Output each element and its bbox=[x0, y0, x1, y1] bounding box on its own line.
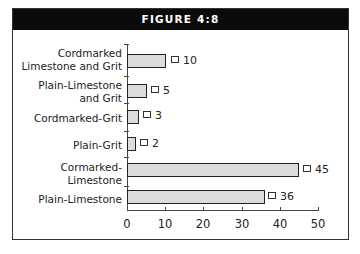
value-label: 5 bbox=[151, 85, 170, 97]
square-marker-icon bbox=[171, 56, 179, 63]
category-label: Plain-Limestone bbox=[38, 193, 122, 206]
square-marker-icon bbox=[151, 86, 159, 93]
bar-cormarked-limestone bbox=[127, 163, 299, 177]
x-tick-label: 20 bbox=[196, 217, 211, 231]
square-marker-icon bbox=[268, 192, 276, 199]
x-tick-label: 50 bbox=[311, 217, 326, 231]
category-label: Plain-Grit bbox=[73, 139, 122, 152]
value-label: 3 bbox=[143, 110, 162, 122]
x-tick-label: 40 bbox=[273, 217, 288, 231]
value-label: 45 bbox=[303, 164, 329, 176]
x-tick bbox=[280, 207, 281, 211]
x-axis bbox=[127, 210, 319, 211]
value-label: 36 bbox=[268, 191, 294, 203]
x-tick bbox=[242, 207, 243, 211]
value-label: 2 bbox=[140, 138, 159, 150]
square-marker-icon bbox=[143, 111, 151, 118]
y-tick bbox=[124, 44, 129, 45]
category-label: Cormarked- Limestone bbox=[61, 161, 123, 187]
y-tick bbox=[124, 157, 129, 158]
bar-plain-limestone bbox=[127, 190, 265, 204]
x-tick-label: 10 bbox=[158, 217, 173, 231]
value-label: 10 bbox=[171, 55, 197, 67]
bar-plain-grit bbox=[127, 137, 136, 151]
y-tick bbox=[124, 186, 129, 187]
bar-cordmarked-grit bbox=[127, 110, 139, 124]
category-label: Cordmarked Limestone and Grit bbox=[22, 47, 123, 73]
y-tick bbox=[124, 131, 129, 132]
x-tick-label: 0 bbox=[123, 217, 130, 231]
x-tick-label: 30 bbox=[235, 217, 250, 231]
bar-cordmarked-limestone-grit bbox=[127, 54, 166, 68]
category-label: Plain-Limestone and Grit bbox=[38, 79, 122, 105]
y-tick bbox=[124, 103, 129, 104]
bar-chart: Cordmarked Limestone and Grit 10 Plain-L… bbox=[0, 0, 360, 254]
bar-plain-limestone-grit bbox=[127, 84, 147, 98]
category-label: Cordmarked-Grit bbox=[34, 112, 122, 125]
x-tick bbox=[318, 207, 319, 211]
x-tick bbox=[127, 207, 128, 211]
y-tick bbox=[124, 76, 129, 77]
square-marker-icon bbox=[303, 165, 311, 172]
x-tick bbox=[165, 207, 166, 211]
x-tick bbox=[203, 207, 204, 211]
square-marker-icon bbox=[140, 139, 148, 146]
